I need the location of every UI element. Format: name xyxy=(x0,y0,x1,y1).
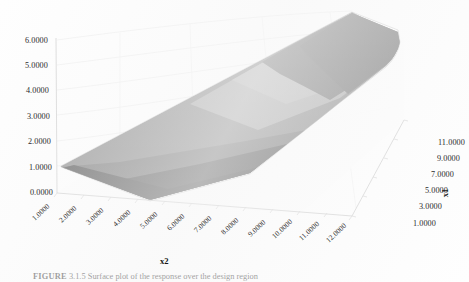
z-tick-label: 6.0000 xyxy=(2,36,48,45)
figure-caption-text: Surface plot of the response over the de… xyxy=(88,272,258,281)
z-tick-label: 0.0000 xyxy=(7,188,53,197)
x2-axis-title: x2 xyxy=(160,256,169,266)
z-tick-label: 5.0000 xyxy=(2,61,48,70)
x1-tick-label: 9.0000 xyxy=(408,154,460,163)
x1-tick-label: 11.0000 xyxy=(413,138,465,147)
z-tick-label: 1.0000 xyxy=(6,163,52,172)
figure-caption-label: FIGURE xyxy=(33,272,67,281)
figure-caption: FIGURE 3.1.5 Surface plot of the respons… xyxy=(33,272,258,281)
figure-container: 6.0000 5.0000 4.0000 3.0000 2.0000 1.000… xyxy=(0,0,469,282)
x1-axis-title: x1 xyxy=(440,189,450,198)
surface-bands xyxy=(0,0,469,282)
z-tick-label: 3.0000 xyxy=(4,112,50,121)
x1-tick-label: 7.0000 xyxy=(402,170,454,179)
figure-caption-number: 3.1.5 xyxy=(69,272,86,281)
x1-tick-label: 1.0000 xyxy=(384,219,436,228)
z-axis-line xyxy=(56,38,57,193)
z-tick-label: 2.0000 xyxy=(5,137,51,146)
surface-plot-canvas xyxy=(0,0,469,282)
z-tick-label: 4.0000 xyxy=(3,86,49,95)
x1-tick-label: 3.0000 xyxy=(390,202,442,211)
